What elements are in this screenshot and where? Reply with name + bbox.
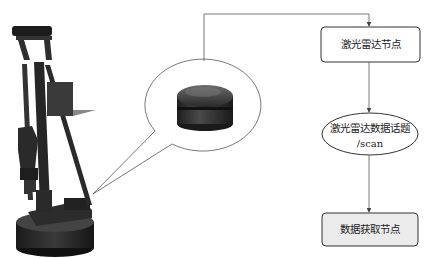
lidar-callout-bubble [93,59,261,194]
robot-illustration [12,26,96,257]
lidar-sensor-image [177,85,233,131]
data-acquisition-node-box: 数据获取节点 [322,213,418,246]
scan-topic-ellipse: 激光雷达数据话题 /scan [322,113,418,155]
lidar-node-label: 激光雷达节点 [341,38,401,50]
data-node-label: 数据获取节点 [340,223,400,235]
scan-topic-sublabel: /scan [357,138,384,149]
scan-topic-label: 激光雷达数据话题 [330,122,411,134]
lidar-data-flow-diagram: 激光雷达节点 激光雷达数据话题 /scan 数据获取节点 [0,0,428,258]
lidar-node-box: 激光雷达节点 [321,27,420,62]
